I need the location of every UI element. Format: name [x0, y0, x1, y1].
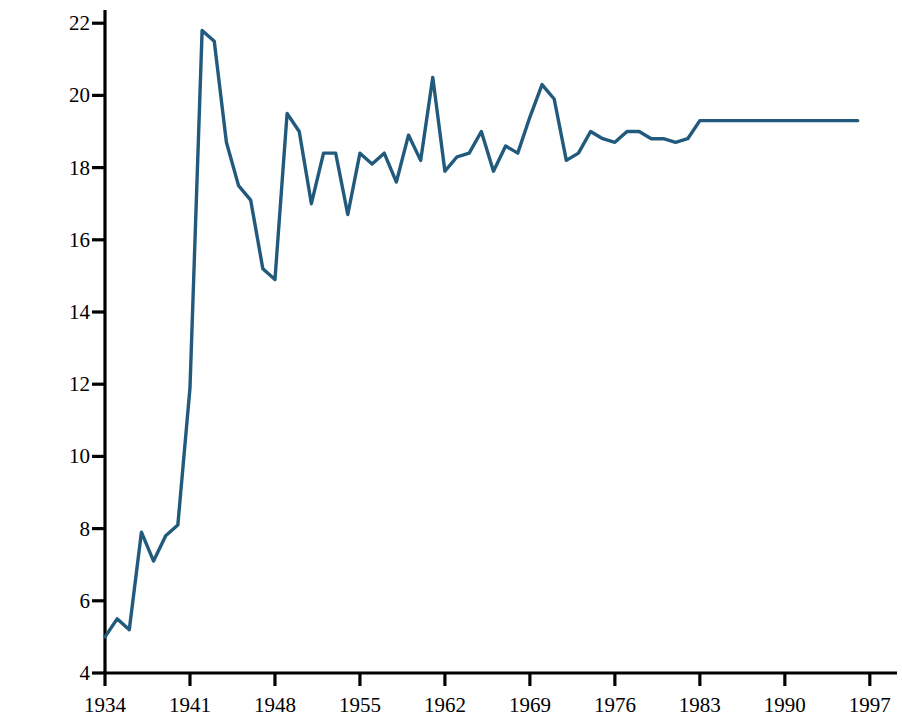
plot-area [0, 0, 902, 725]
y-axis-ticks [92, 23, 105, 673]
chart-figure: Percentage of GDP 46810121416182022 1934… [0, 0, 902, 725]
x-axis-ticks [105, 673, 870, 686]
x-axis-tick-label: 1983 [679, 695, 721, 716]
y-axis-tick-label: 4 [40, 663, 90, 684]
x-axis-tick-label: 1990 [764, 695, 806, 716]
y-axis-tick-label: 10 [40, 446, 90, 467]
x-axis-tick-label: 1948 [254, 695, 296, 716]
x-axis-tick-label: 1969 [509, 695, 551, 716]
y-axis-tick-label: 16 [40, 229, 90, 250]
y-axis-tick-label: 12 [40, 374, 90, 395]
y-axis-tick-label: 6 [40, 590, 90, 611]
x-axis-tick-label: 1962 [424, 695, 466, 716]
x-axis-tick-label: 1934 [84, 695, 126, 716]
x-axis-tick-label: 1997 [849, 695, 891, 716]
x-axis-tick-label: 1955 [339, 695, 381, 716]
y-axis-tick-label: 14 [40, 302, 90, 323]
x-axis-tick-label: 1976 [594, 695, 636, 716]
y-axis-tick-label: 8 [40, 518, 90, 539]
data-series-line [105, 30, 858, 636]
x-axis-tick-label: 1941 [169, 695, 211, 716]
y-axis-tick-label: 20 [40, 85, 90, 106]
y-axis-tick-label: 18 [40, 157, 90, 178]
y-axis-tick-label: 22 [40, 13, 90, 34]
